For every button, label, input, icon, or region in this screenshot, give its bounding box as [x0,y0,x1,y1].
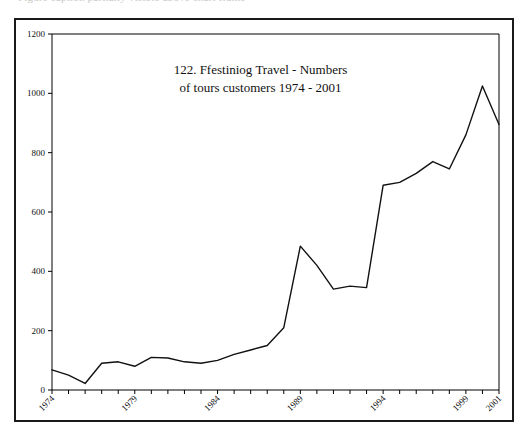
line-chart: 0200400600800100012001974197919841989199… [16,20,512,420]
x-axis-tick-label: 2001 [484,393,504,413]
cut-off-header-text: Figure caption partially visible above c… [18,0,245,3]
chart-title-line-1: 122. Ffestiniog Travel - Numbers [174,62,348,77]
data-series-line [52,86,499,384]
x-axis-tick-label: 1989 [285,393,305,413]
x-axis-tick-label: 1974 [37,393,57,413]
y-axis-tick-label: 1000 [27,88,46,98]
y-axis-tick-label: 600 [32,207,46,217]
x-axis-tick-label: 1999 [451,393,471,413]
x-axis-tick-label: 1984 [202,393,222,413]
chart-title-line-2: of tours customers 1974 - 2001 [179,80,341,95]
chart-plot-area: 0200400600800100012001974197919841989199… [16,20,512,420]
x-axis-tick-label: 1979 [119,393,139,413]
cut-off-header-strip: Figure caption partially visible above c… [0,0,529,16]
chart-frame: 0200400600800100012001974197919841989199… [14,18,514,422]
y-axis-tick-label: 200 [32,326,46,336]
x-axis-tick-label: 1994 [368,393,388,413]
y-axis-tick-label: 0 [41,385,46,395]
y-axis-tick-label: 400 [32,266,46,276]
y-axis-tick-label: 800 [32,148,46,158]
y-axis-tick-label: 1200 [27,29,46,39]
